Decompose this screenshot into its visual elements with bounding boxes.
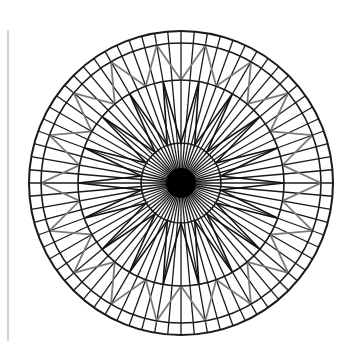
mandala-diagram: [0, 0, 360, 345]
center-disk-fill: [166, 168, 196, 198]
center-disk: [166, 168, 196, 198]
